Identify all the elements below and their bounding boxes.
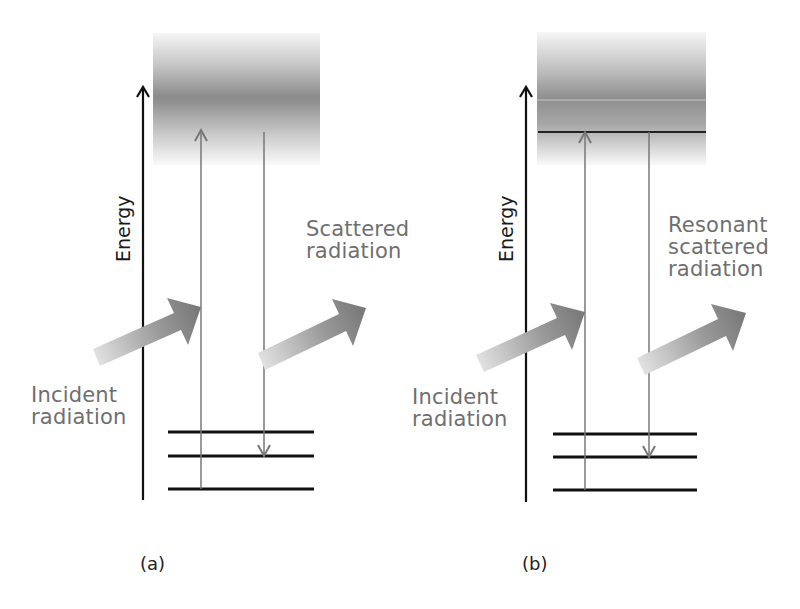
incident-label-b: Incident radiation	[412, 386, 508, 430]
resonant-scattered-label-b: Resonant scattered radiation	[668, 214, 769, 280]
energy-axis-label-a: Energy	[112, 195, 134, 262]
virtual-state-band	[153, 33, 320, 165]
scattered-label-a: Scattered radiation	[306, 218, 409, 262]
incident-radiation-arrow-icon	[93, 298, 201, 366]
incident-radiation-arrow-icon	[476, 303, 585, 372]
scattered-label-b-line2: scattered	[668, 236, 769, 258]
diagram-canvas	[0, 0, 800, 609]
panel-b-caption: (b)	[522, 553, 547, 574]
panel-a	[93, 33, 366, 500]
scattered-label-a-line1: Scattered	[306, 218, 409, 240]
panel-a-caption: (a)	[140, 553, 165, 574]
incident-label-a-line2: radiation	[31, 406, 127, 428]
scattered-label-b-line1: Resonant	[668, 214, 769, 236]
scattered-label-a-line2: radiation	[306, 240, 409, 262]
incident-label-a: Incident radiation	[31, 384, 127, 428]
scattered-label-b-line3: radiation	[668, 258, 769, 280]
incident-label-b-line1: Incident	[412, 386, 508, 408]
energy-axis-label-b: Energy	[495, 195, 517, 262]
incident-label-a-line1: Incident	[31, 384, 127, 406]
incident-label-b-line2: radiation	[412, 408, 508, 430]
virtual-state-band	[537, 32, 706, 165]
scattered-radiation-arrow-icon	[258, 299, 366, 370]
resonant-scattered-radiation-arrow-icon	[637, 304, 746, 375]
